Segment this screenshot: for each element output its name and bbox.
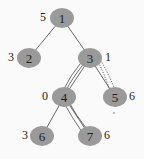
node-4-label: 4	[61, 90, 68, 105]
node-2[interactable]: 2 3	[8, 48, 41, 68]
node-7[interactable]: 7 6	[78, 126, 110, 146]
tree-diagram: 1 5 2 3 3 1 4 0 5 6 6 3 7 6	[0, 0, 144, 159]
node-5-weight: 6	[129, 89, 135, 103]
node-2-label: 2	[26, 51, 33, 66]
node-6-label: 6	[39, 129, 46, 144]
node-1[interactable]: 1 5	[40, 8, 74, 28]
node-4[interactable]: 4 0	[42, 87, 76, 107]
node-3-label: 3	[87, 51, 94, 66]
dot-mark	[113, 112, 114, 113]
node-3[interactable]: 3 1	[78, 48, 111, 68]
node-7-label: 7	[87, 129, 94, 144]
node-1-weight: 5	[40, 10, 46, 24]
node-3-weight: 1	[105, 50, 111, 64]
node-6-weight: 3	[22, 128, 28, 142]
node-5-label: 5	[112, 90, 119, 105]
node-5[interactable]: 5 6	[103, 87, 135, 107]
node-6[interactable]: 6 3	[22, 126, 54, 146]
node-7-weight: 6	[104, 128, 110, 142]
node-4-weight: 0	[42, 89, 48, 103]
node-1-label: 1	[59, 11, 66, 26]
node-2-weight: 3	[8, 50, 14, 64]
